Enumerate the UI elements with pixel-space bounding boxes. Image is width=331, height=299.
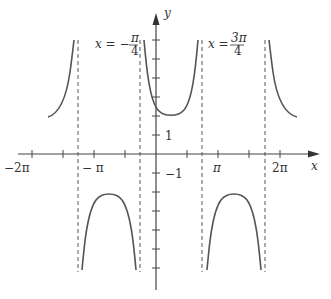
x-axis-arrow-icon: [308, 151, 320, 158]
svg-text:3π: 3π: [231, 31, 248, 45]
tick-label-2pi: 2π: [272, 161, 288, 175]
x-axis-label: x: [311, 159, 318, 173]
y-axis-arrow-icon: [153, 13, 160, 25]
asymptotes: [78, 40, 265, 272]
tick-label-neg1: −1: [165, 167, 183, 181]
y-axis-label: y: [163, 6, 171, 20]
branch-left-lower: [82, 194, 136, 270]
svg-text:4: 4: [131, 44, 139, 58]
curve: [48, 40, 297, 270]
tick-label-negpi: − π: [82, 161, 104, 175]
branch-right-lower: [207, 194, 261, 270]
branch-left-upper: [48, 40, 74, 117]
csc-graph: y x −2π − π π 2π 1 −1 x = − π 4 x = 3π 4: [0, 0, 331, 299]
tick-label-neg2pi: −2π: [4, 161, 30, 175]
tick-label-1: 1: [165, 129, 173, 143]
asymptote-label-left: x = − π 4: [95, 31, 140, 58]
svg-text:x =: x =: [208, 37, 229, 51]
asymptote-label-right: x = 3π 4: [208, 31, 248, 58]
svg-text:4: 4: [234, 44, 242, 58]
branch-right-upper: [269, 40, 297, 117]
tick-label-pi: π: [212, 161, 222, 175]
svg-text:x = −: x = −: [95, 37, 130, 51]
svg-text:π: π: [130, 31, 140, 45]
